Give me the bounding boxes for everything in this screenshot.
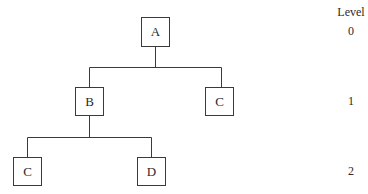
node-d-label: D (147, 164, 156, 180)
node-a: A (141, 17, 170, 47)
level-1-label: 1 (331, 94, 368, 109)
tree-edges (0, 0, 368, 194)
node-c-level1: C (205, 87, 234, 116)
node-c-level2: C (13, 157, 42, 186)
node-b: B (75, 87, 104, 116)
level-0-label: 0 (331, 24, 368, 39)
node-a-label: A (151, 24, 160, 40)
node-c-level2-label: C (23, 164, 32, 180)
node-c-level1-label: C (215, 94, 224, 110)
node-b-label: B (85, 94, 94, 110)
level-axis-title: Level (331, 5, 368, 20)
level-2-label: 2 (331, 164, 368, 179)
node-d: D (137, 157, 166, 186)
